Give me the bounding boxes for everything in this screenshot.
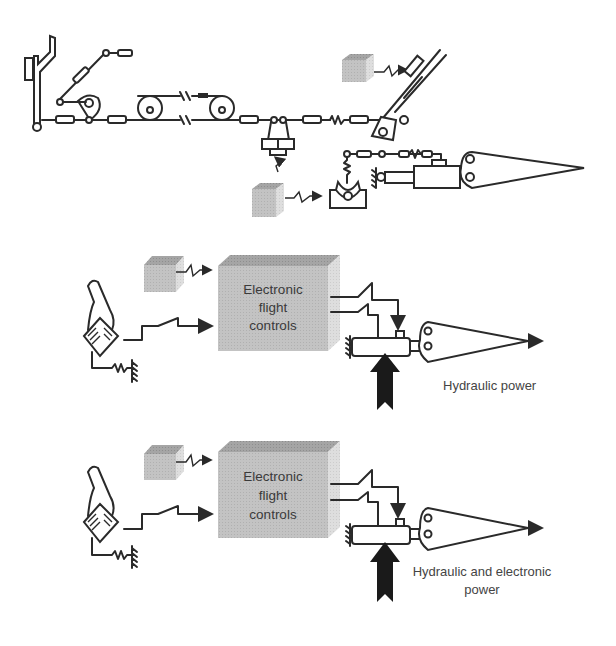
actuator-icon	[346, 519, 426, 546]
efc-label-line-2: flight	[259, 488, 288, 503]
control-stick-icon	[25, 36, 55, 131]
bellcrank-icon	[57, 50, 132, 123]
mechanical-linkage-panel	[25, 36, 584, 217]
sidestick-icon	[84, 467, 137, 568]
power-label: Hydraulic power	[443, 378, 537, 393]
power-label-line-2: power	[464, 582, 500, 597]
control-surface-icon	[419, 508, 540, 550]
electronic-flight-controls-box: Electronic flight controls	[218, 441, 340, 538]
sidestick-icon	[84, 281, 137, 382]
power-arrow-icon	[370, 542, 400, 602]
actuator-icon	[346, 331, 426, 358]
efc-label-line-3: controls	[249, 507, 297, 522]
autopilot-box	[252, 183, 320, 217]
fbw-electronic-panel: Electronic flight controls Hydraulic and…	[84, 441, 552, 602]
power-label-line-1: Hydraulic and electronic	[413, 564, 552, 579]
feel-unit-icon	[330, 182, 366, 208]
efc-label-line-3: controls	[249, 318, 297, 333]
efc-label-line-2: flight	[259, 300, 288, 315]
sensor-box	[144, 256, 210, 292]
efc-label-line-1: Electronic	[243, 469, 303, 484]
trim-servo-box	[342, 54, 406, 82]
power-arrow-icon	[370, 353, 400, 410]
sensor-box	[144, 445, 210, 480]
trim-actuator-icon	[372, 50, 446, 140]
fbw-hydraulic-panel: Electronic flight controls Hydraulic pow…	[84, 255, 540, 410]
hydraulic-actuator-icon	[372, 160, 460, 188]
control-surface-icon	[460, 152, 584, 188]
servo-clutch-icon	[262, 117, 294, 172]
control-surface-icon	[419, 322, 540, 362]
electronic-flight-controls-box: Electronic flight controls	[218, 255, 340, 351]
efc-label-line-1: Electronic	[243, 282, 303, 297]
flight-control-diagram: Electronic flight controls Hydraulic pow…	[0, 0, 616, 646]
